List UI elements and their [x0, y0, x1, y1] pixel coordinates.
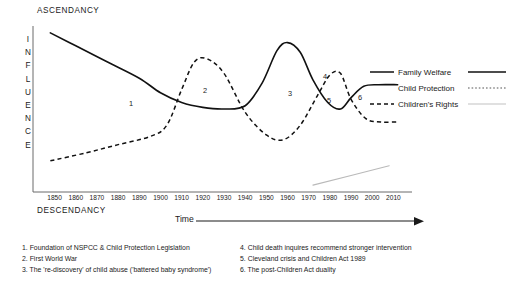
- x-tick-1930: 1930: [217, 194, 232, 201]
- event-marker-5: 5: [327, 96, 331, 105]
- chart-note-5: 5. Cleveland crisis and Children Act 198…: [240, 253, 366, 264]
- chart-note-1: 1. Foundation of NSPCC & Child Protectio…: [22, 242, 190, 253]
- event-marker-4: 4: [323, 72, 327, 81]
- x-tick-1870: 1870: [90, 194, 105, 201]
- x-tick-1940: 1940: [238, 194, 253, 201]
- influence-letter-4: U: [25, 86, 31, 99]
- x-tick-1950: 1950: [259, 194, 274, 201]
- x-tick-1900: 1900: [153, 194, 168, 201]
- x-tick-2010: 2010: [386, 194, 401, 201]
- x-tick-1970: 1970: [301, 194, 316, 201]
- x-tick-1980: 1980: [323, 194, 338, 201]
- series-line-childrens-rights: [313, 166, 389, 185]
- ascendancy-axis-label: ASCENDANCY: [37, 6, 99, 15]
- chart-note-4: 4. Child death inquires recommend strong…: [240, 242, 412, 253]
- event-marker-2: 2: [203, 86, 207, 95]
- time-axis-arrow: [196, 217, 424, 226]
- influence-letter-7: C: [25, 125, 31, 138]
- descendancy-axis-label: DESCENDANCY: [37, 206, 106, 215]
- x-tick-1960: 1960: [280, 194, 295, 201]
- x-tick-1910: 1910: [174, 194, 189, 201]
- influence-letter-0: I: [27, 33, 29, 46]
- legend-label-family-welfare: Family Welfare: [398, 68, 451, 77]
- x-tick-1880: 1880: [111, 194, 126, 201]
- influence-letter-6: N: [25, 112, 31, 125]
- chart-note-6: 6. The post-Children Act duality: [240, 264, 336, 275]
- x-tick-1920: 1920: [195, 194, 210, 201]
- event-marker-6: 6: [358, 93, 362, 102]
- x-tick-1850: 1850: [47, 194, 62, 201]
- legend-label-child-protection: Child Protection: [398, 84, 454, 93]
- x-tick-2000: 2000: [365, 194, 380, 201]
- influence-axis-label: INFLUENCE: [22, 33, 34, 152]
- chart-note-2: 2. First World War: [22, 253, 77, 264]
- x-tick-1860: 1860: [68, 194, 83, 201]
- x-tick-1890: 1890: [132, 194, 147, 201]
- chart-figure: ASCENDANCY DESCENDANCY INFLUENCE Time 18…: [0, 0, 531, 287]
- influence-letter-2: F: [25, 59, 30, 72]
- influence-letter-5: E: [25, 99, 30, 112]
- time-axis-label: Time: [175, 214, 194, 224]
- event-marker-3: 3: [288, 89, 292, 98]
- legend-label-childrens-rights: Children's Rights: [398, 100, 458, 109]
- influence-letter-1: N: [25, 46, 31, 59]
- event-marker-1: 1: [129, 99, 133, 108]
- chart-note-3: 3. The 're-discovery' of child abuse ('b…: [22, 264, 211, 275]
- series-line-family-welfare: [50, 33, 397, 109]
- influence-letter-8: E: [25, 139, 30, 152]
- x-tick-1990: 1990: [344, 194, 359, 201]
- influence-letter-3: L: [26, 73, 31, 86]
